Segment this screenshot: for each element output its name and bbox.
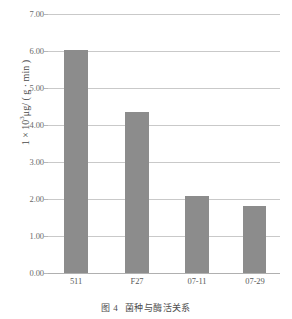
y-tick-label-7: 7.00 [0, 10, 44, 19]
y-tickmark-0 [44, 273, 48, 274]
x-tick-label-F27: F27 [109, 277, 165, 286]
y-axis-title-prefix: 1 × 10 [20, 120, 31, 146]
y-axis-title: 1 × 103μg/ ( g · min ) [17, 23, 30, 183]
bar-511[interactable] [64, 50, 88, 273]
gridline-0-baseline [48, 273, 280, 274]
figure-container: 7.00 6.00 5.00 4.00 3.00 2.00 1.00 0.00 … [0, 0, 292, 319]
y-axis-title-suffix: μg/ ( g · min ) [20, 60, 31, 116]
bar-07-29[interactable] [243, 206, 266, 273]
y-axis-title-exponent: 3 [18, 116, 26, 120]
x-tick-label-511: 511 [48, 277, 104, 286]
y-tick-label-2: 2.00 [0, 195, 44, 204]
bar-F27[interactable] [125, 112, 149, 273]
caption-number: 图 4 [101, 303, 118, 313]
bars-layer [48, 14, 280, 273]
y-tick-label-0: 0.00 [0, 269, 44, 278]
x-tick-label-07-29: 07-29 [227, 277, 283, 286]
bar-07-11[interactable] [185, 196, 209, 273]
x-tick-label-07-11: 07-11 [169, 277, 225, 286]
y-tick-label-1: 1.00 [0, 232, 44, 241]
figure-caption: 图 4菌种与酶活关系 [0, 303, 292, 319]
caption-text: 菌种与酶活关系 [125, 303, 191, 313]
